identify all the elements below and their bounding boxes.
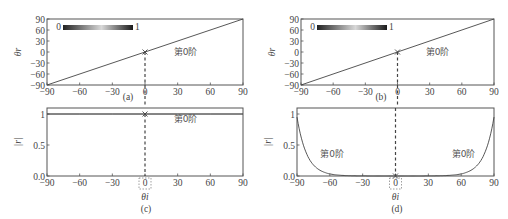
x-tick-label: 30: [424, 178, 434, 188]
order-annotation: 第0阶: [426, 46, 450, 57]
colorbar-min-label: 0: [56, 22, 61, 32]
y-tick-label: 60: [36, 26, 46, 36]
y-axis-label: θr: [13, 48, 23, 57]
x-tick-label: 60: [206, 87, 216, 97]
y-axis-label: |r|: [13, 138, 23, 147]
x-tick-label: 60: [457, 87, 467, 97]
x-axis-label: θi: [141, 192, 149, 202]
y-tick-label: 0: [40, 48, 45, 58]
x-tick-label: 30: [425, 87, 435, 97]
colorbar-max-label: 1: [135, 22, 140, 32]
y-tick-label: 60: [290, 26, 300, 36]
y-tick-label: 90: [290, 15, 300, 25]
y-tick-label: 0: [294, 48, 299, 58]
x-tick-label: −60: [326, 87, 341, 97]
x-tick-label: −60: [72, 87, 87, 97]
x-tick-label: 90: [238, 178, 248, 188]
x-tick-label: 0: [393, 178, 398, 188]
y-tick-label: 0.5: [33, 141, 45, 151]
y-tick-label: −30: [30, 59, 45, 69]
order-annotation: 第0阶: [320, 148, 344, 159]
x-tick-label: −30: [105, 178, 120, 188]
panel-c: −90−60−3003060900.00.51|r|第0阶θi(c): [13, 108, 248, 215]
panel-b: −90−60−300306090−90−60−300306090θr第0阶01(…: [267, 15, 499, 108]
y-tick-label: −60: [30, 70, 45, 80]
x-tick-label: −30: [358, 87, 373, 97]
x-tick-label: 90: [238, 87, 248, 97]
x-tick-label: −30: [355, 178, 370, 188]
y-tick-label: 90: [36, 15, 46, 25]
x-tick-label: 60: [456, 178, 466, 188]
x-tick-label: 60: [206, 178, 216, 188]
panel-d: −90−60−3003060900.00.51|r|第0阶第0阶θi(d): [263, 108, 499, 215]
x-tick-label: −60: [72, 178, 87, 188]
y-tick-label: 0.0: [283, 172, 295, 182]
y-tick-label: 1: [290, 110, 295, 120]
y-tick-label: 30: [36, 37, 46, 47]
panel-label: (d): [391, 204, 402, 215]
colorbar-max-label: 1: [389, 22, 394, 32]
y-axis-label: θr: [267, 48, 277, 57]
panel-label: (b): [375, 92, 386, 103]
y-tick-label: −90: [284, 81, 299, 91]
colorbar: [63, 25, 133, 30]
y-axis-label: |r|: [263, 138, 273, 147]
figure: −90−60−300306090−90−60−300306090θr第0阶01(…: [0, 0, 508, 219]
x-axis-label: θi: [392, 192, 400, 202]
y-tick-label: 0.0: [33, 172, 45, 182]
x-tick-label: −30: [105, 87, 120, 97]
order-annotation: 第0阶: [174, 113, 198, 124]
x-tick-label: 30: [173, 87, 183, 97]
y-tick-label: −60: [284, 70, 299, 80]
y-tick-label: −30: [284, 59, 299, 69]
x-tick-label: 30: [173, 178, 183, 188]
y-tick-label: 1: [40, 110, 45, 120]
x-tick-label: 0: [143, 178, 148, 188]
panel-label: (a): [123, 92, 134, 103]
order-annotation: 第0阶: [452, 148, 476, 159]
colorbar: [317, 25, 387, 30]
order-annotation: 第0阶: [174, 46, 198, 57]
colorbar-min-label: 0: [310, 22, 315, 32]
x-tick-label: −60: [322, 178, 337, 188]
panel-label: (c): [141, 204, 152, 215]
x-tick-label: 90: [489, 178, 499, 188]
y-tick-label: 30: [290, 37, 300, 47]
y-tick-label: 0.5: [283, 141, 295, 151]
x-tick-label: 90: [489, 87, 499, 97]
y-tick-label: −90: [30, 81, 45, 91]
panel-a: −90−60−300306090−90−60−300306090θr第0阶01(…: [13, 15, 248, 108]
